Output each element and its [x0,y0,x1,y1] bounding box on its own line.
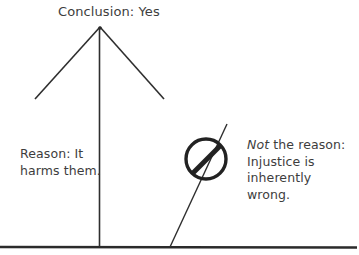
rejected-reason-line-1-rest: the reason: [269,137,345,152]
rejected-reason-line-4: wrong. [247,187,345,204]
supporting-reason-label: Reason: It harms them. [20,146,101,179]
supporting-reason-line-1: Reason: It [20,146,101,163]
conclusion-label: Conclusion: Yes [58,4,160,21]
supporting-reason-line-2: harms them. [20,163,101,180]
argument-diagram [0,0,359,255]
rejected-reason-line-2: Injustice is [247,154,345,171]
rejected-reason-line-1: Not the reason: [247,137,345,154]
ground-line [0,247,357,248]
not-emphasis: Not [247,137,269,152]
prohibition-icon [186,139,226,179]
roof-right-line [100,27,164,99]
roof-left-line [35,27,100,99]
rejected-reason-label: Not the reason: Injustice is inherently … [247,137,345,203]
rejected-reason-line-3: inherently [247,170,345,187]
